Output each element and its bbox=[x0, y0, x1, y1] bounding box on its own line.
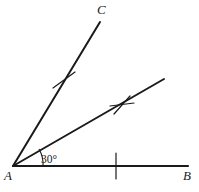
vertex-label-b: B bbox=[183, 169, 191, 182]
ray-middle bbox=[13, 79, 164, 166]
geometry-canvas bbox=[0, 0, 199, 192]
angle-measure-label: 30° bbox=[41, 154, 57, 166]
tick-on-ac bbox=[53, 72, 75, 88]
geometry-figure: A B C 30° bbox=[0, 0, 199, 192]
vertex-label-c: C bbox=[97, 3, 106, 16]
ray-ac bbox=[13, 22, 100, 166]
vertex-label-a: A bbox=[4, 169, 12, 182]
